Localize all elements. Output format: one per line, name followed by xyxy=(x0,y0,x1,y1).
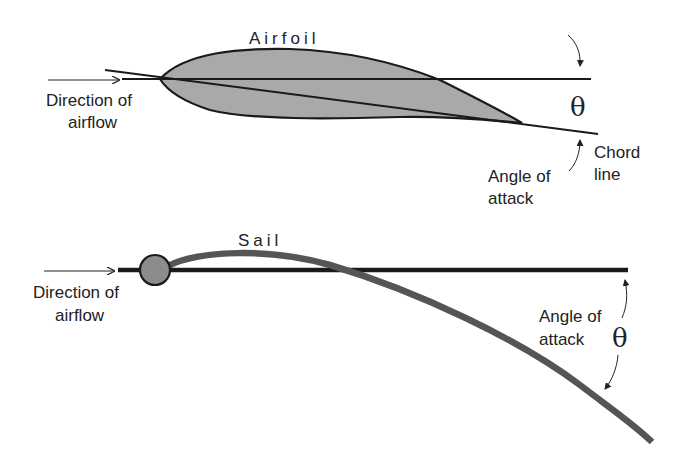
mast-icon xyxy=(140,255,170,285)
airfoil-shape xyxy=(160,49,522,123)
sail-angle-arrow-up-icon xyxy=(622,280,627,318)
angle-arrow-bottom-icon xyxy=(569,140,580,171)
airfoil-direction-label-2: airflow xyxy=(68,113,118,132)
sail-title: Sail xyxy=(238,231,282,250)
sail-direction-label-2: airflow xyxy=(55,306,105,325)
airfoil-title: Airfoil xyxy=(249,29,320,48)
airfoil-panel: Airfoil Direction of airflow θ Chord lin… xyxy=(46,29,640,208)
sail-direction-label-1: Direction of xyxy=(33,283,119,302)
angle-arrow-top-icon xyxy=(568,35,580,66)
sail-angle-label-2: attack xyxy=(539,330,585,349)
chord-label-2: line xyxy=(594,165,620,184)
airfoil-sail-diagram: Airfoil Direction of airflow θ Chord lin… xyxy=(0,0,684,455)
airfoil-angle-label-1: Angle of xyxy=(488,167,551,186)
airfoil-direction-label-1: Direction of xyxy=(46,91,132,110)
airfoil-angle-label-2: attack xyxy=(488,189,534,208)
sail-theta-symbol: θ xyxy=(612,323,628,353)
sail-panel: Sail Direction of airflow Angle of attac… xyxy=(33,231,652,442)
sail-angle-label-1: Angle of xyxy=(539,307,602,326)
chord-label-1: Chord xyxy=(594,143,640,162)
airfoil-theta-symbol: θ xyxy=(570,92,586,122)
sail-angle-arrow-down-icon xyxy=(605,355,618,389)
